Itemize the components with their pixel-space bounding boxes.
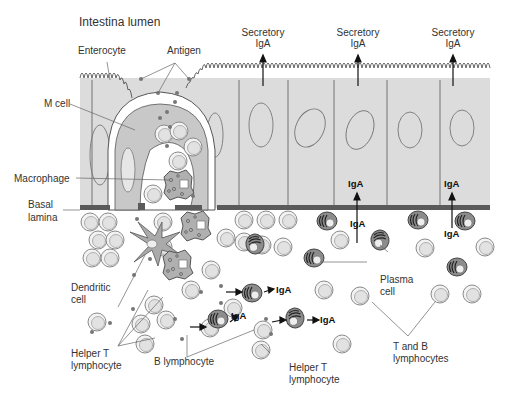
label-iga-plasma-1: IgA [276, 284, 291, 295]
label-secretory-iga-2: Secretory IgA [335, 27, 381, 49]
label-macrophage: Macrophage [14, 173, 70, 184]
label-plasma-1: Plasma [380, 274, 413, 285]
label-iga-plasma-3: IgA [320, 314, 335, 325]
label-helper-t-left-2: lymphocyte [71, 360, 122, 371]
gut-immunity-diagram [0, 0, 505, 399]
plasma-cells [208, 211, 475, 329]
label-helper-t-bottom-2: lymphocyte [289, 374, 340, 385]
label-iga-below-1: IgA [350, 218, 365, 229]
label-basal-lamina-2: lamina [28, 212, 57, 223]
intestinal-lumen-title: Intestina lumen [79, 17, 160, 28]
label-secretory-iga-3: Secretory IgA [430, 27, 476, 49]
macrophage-shape [164, 170, 194, 200]
label-b-lymphocyte: B lymphocyte [154, 356, 214, 367]
label-iga-cell-2: IgA [444, 178, 459, 189]
label-helper-t-left-1: Helper T [71, 348, 109, 359]
label-helper-t-bottom-1: Helper T [289, 362, 327, 373]
label-iga-below-2: IgA [444, 228, 459, 239]
label-antigen: Antigen [167, 45, 201, 56]
label-dendritic-2: cell [71, 294, 86, 305]
label-basal-lamina-1: Basal [28, 199, 53, 210]
label-plasma-2: cell [380, 286, 395, 297]
label-t-and-b-2: lymphocytes [393, 353, 449, 364]
label-t-and-b-1: T and B [393, 341, 428, 352]
label-dendritic-1: Dendritic [71, 282, 110, 293]
label-m-cell: M cell [44, 98, 70, 109]
label-iga-plasma-2: IgA [231, 310, 246, 321]
label-secretory-iga-1: Secretory IgA [240, 27, 286, 49]
label-enterocyte: Enterocyte [78, 45, 126, 56]
label-iga-cell-1: IgA [348, 178, 363, 189]
